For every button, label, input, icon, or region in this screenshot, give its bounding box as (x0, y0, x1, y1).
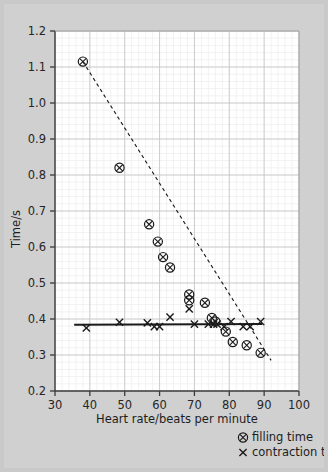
figure-panel: 1.21.11.00.90.80.70.60.50.40.30.2 304050… (4, 4, 324, 468)
x-axis-title: Heart rate/beats per minute (96, 412, 258, 426)
y-tick-label-8: 0.4 (28, 312, 46, 326)
x-tick-label-7: 100 (288, 398, 310, 412)
y-tick-label-7: 0.5 (28, 276, 46, 290)
y-tick-label-1: 1.1 (28, 60, 46, 74)
x-tick-label-5: 80 (222, 398, 237, 412)
x-tick-label-6: 90 (257, 398, 272, 412)
y-tick-label-10: 0.2 (28, 384, 46, 398)
y-tick-label-5: 0.7 (28, 204, 46, 218)
y-tick-label-0: 1.2 (28, 24, 46, 38)
y-tick-label-9: 0.3 (28, 348, 46, 362)
y-tick-label-2: 1.0 (28, 96, 46, 110)
x-tick-label-1: 40 (83, 398, 98, 412)
chart-legend: filling timecontraction time (238, 430, 324, 459)
y-tick-label-6: 0.6 (28, 240, 46, 254)
y-axis-title: Time/s (9, 210, 23, 249)
legend-label-0: filling time (252, 430, 313, 444)
x-tick-label-2: 50 (117, 398, 132, 412)
y-tick-label-3: 0.9 (28, 132, 46, 146)
x-tick-label-0: 30 (48, 398, 63, 412)
x-tick-label-3: 60 (152, 398, 167, 412)
x-tick-label-4: 70 (187, 398, 202, 412)
legend-label-1: contraction time (252, 445, 324, 459)
y-tick-label-4: 0.8 (28, 168, 46, 182)
heart-rate-time-chart: 1.21.11.00.90.80.70.60.50.40.30.2 304050… (4, 4, 324, 468)
